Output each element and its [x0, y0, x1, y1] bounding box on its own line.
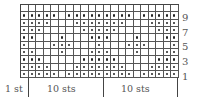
purl-dot-cell	[149, 71, 157, 78]
purl-dot-cell	[164, 20, 172, 27]
purl-dot-cell	[36, 27, 44, 34]
blank-cell	[66, 27, 74, 34]
purl-dot-cell	[111, 71, 119, 78]
blank-cell	[51, 34, 59, 41]
blank-cell	[66, 56, 74, 63]
purl-dot-cell	[21, 12, 29, 19]
blank-cell	[164, 5, 172, 12]
purl-dot-cell	[119, 64, 127, 71]
purl-dot-cell	[134, 34, 142, 41]
edge-stitch-label: 1 st	[5, 83, 23, 94]
purl-dot-cell	[81, 12, 89, 19]
blank-cell	[119, 34, 127, 41]
blank-cell	[44, 56, 52, 63]
blank-cell	[51, 5, 59, 12]
blank-cell	[81, 49, 89, 56]
blank-cell	[51, 64, 59, 71]
blank-cell	[119, 5, 127, 12]
purl-dot-cell	[89, 27, 97, 34]
blank-cell	[74, 5, 82, 12]
purl-dot-cell	[21, 56, 29, 63]
blank-cell	[74, 42, 82, 49]
purl-dot-cell	[96, 49, 104, 56]
purl-dot-cell	[111, 56, 119, 63]
purl-dot-cell	[164, 27, 172, 34]
blank-cell	[141, 27, 149, 34]
purl-dot-cell	[96, 27, 104, 34]
blank-cell	[126, 27, 134, 34]
blank-cell	[66, 64, 74, 71]
blank-cell	[119, 49, 127, 56]
purl-dot-cell	[156, 27, 164, 34]
purl-dot-cell	[36, 56, 44, 63]
blank-cell	[119, 27, 127, 34]
blank-cell	[74, 49, 82, 56]
purl-dot-cell	[104, 49, 112, 56]
purl-dot-cell	[126, 12, 134, 19]
purl-dot-cell	[104, 64, 112, 71]
purl-dot-cell	[81, 71, 89, 78]
blank-cell	[59, 71, 67, 78]
purl-dot-cell	[156, 71, 164, 78]
purl-dot-cell	[21, 20, 29, 27]
purl-dot-cell	[171, 42, 179, 49]
blank-cell	[126, 34, 134, 41]
blank-cell	[59, 64, 67, 71]
blank-cell	[66, 20, 74, 27]
purl-dot-cell	[141, 42, 149, 49]
blank-cell	[89, 5, 97, 12]
purl-dot-cell	[44, 71, 52, 78]
blank-cell	[149, 42, 157, 49]
purl-dot-cell	[171, 20, 179, 27]
blank-cell	[119, 42, 127, 49]
blank-cell	[44, 49, 52, 56]
purl-dot-cell	[171, 56, 179, 63]
blank-cell	[111, 42, 119, 49]
purl-dot-cell	[111, 64, 119, 71]
purl-dot-cell	[81, 27, 89, 34]
blank-cell	[111, 34, 119, 41]
purl-dot-cell	[104, 20, 112, 27]
blank-cell	[36, 49, 44, 56]
blank-cell	[89, 42, 97, 49]
purl-dot-cell	[119, 20, 127, 27]
purl-dot-cell	[171, 34, 179, 41]
blank-cell	[74, 56, 82, 63]
blank-cell	[134, 56, 142, 63]
purl-dot-cell	[29, 71, 37, 78]
purl-dot-cell	[156, 20, 164, 27]
purl-dot-cell	[89, 34, 97, 41]
purl-dot-cell	[104, 12, 112, 19]
blank-cell	[51, 56, 59, 63]
purl-dot-cell	[81, 20, 89, 27]
purl-dot-cell	[59, 42, 67, 49]
blank-cell	[149, 56, 157, 63]
blank-cell	[134, 5, 142, 12]
blank-cell	[104, 42, 112, 49]
purl-dot-cell	[59, 34, 67, 41]
blank-cell	[104, 5, 112, 12]
blank-cell	[111, 5, 119, 12]
blank-cell	[96, 5, 104, 12]
repeat-label-a: 10 sts	[47, 83, 76, 94]
purl-dot-cell	[164, 49, 172, 56]
blank-cell	[126, 64, 134, 71]
blank-cell	[141, 64, 149, 71]
blank-cell	[36, 42, 44, 49]
blank-cell	[29, 5, 37, 12]
purl-dot-cell	[21, 34, 29, 41]
purl-dot-cell	[171, 64, 179, 71]
row-label-5: 5	[182, 42, 188, 52]
purl-dot-cell	[36, 20, 44, 27]
blank-cell	[171, 5, 179, 12]
purl-dot-cell	[36, 12, 44, 19]
blank-cell	[134, 20, 142, 27]
blank-cell	[141, 49, 149, 56]
purl-dot-cell	[81, 64, 89, 71]
purl-dot-cell	[134, 42, 142, 49]
blank-cell	[134, 27, 142, 34]
purl-dot-cell	[51, 12, 59, 19]
blank-cell	[44, 5, 52, 12]
purl-dot-cell	[111, 27, 119, 34]
blank-cell	[44, 34, 52, 41]
